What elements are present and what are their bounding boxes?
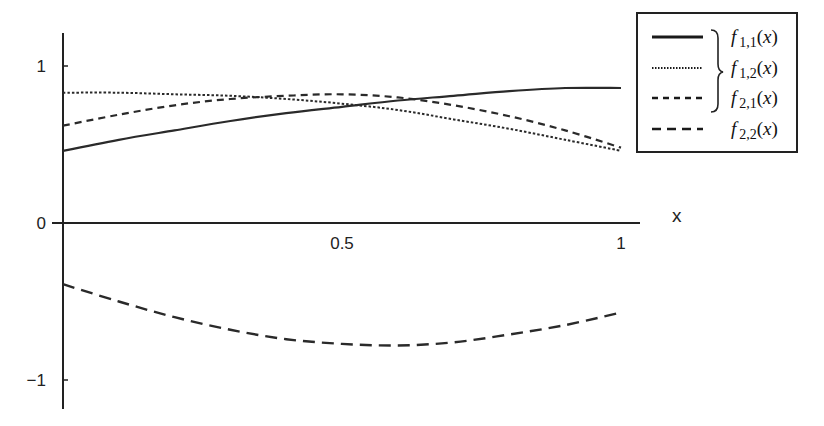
series-line-1-1 <box>63 88 621 151</box>
y-tick-label: 1 <box>37 57 46 76</box>
series-group <box>63 88 621 346</box>
series-line-2-1 <box>63 94 621 147</box>
line-chart: 10−1 0.51 x f1,1(x)f1,2(x)f2,1(x)f2,2(x) <box>0 0 824 426</box>
legend: f1,1(x)f1,2(x)f2,1(x)f2,2(x) <box>637 13 797 152</box>
x-tick-label: 1 <box>616 234 625 253</box>
x-ticks: 0.51 <box>330 234 626 253</box>
y-tick-label: −1 <box>27 371 46 390</box>
x-tick-label: 0.5 <box>330 234 354 253</box>
series-line-2-2 <box>63 284 621 345</box>
series-line-1-2 <box>63 93 621 151</box>
x-axis-label: x <box>672 205 682 226</box>
y-tick-label: 0 <box>37 214 46 233</box>
